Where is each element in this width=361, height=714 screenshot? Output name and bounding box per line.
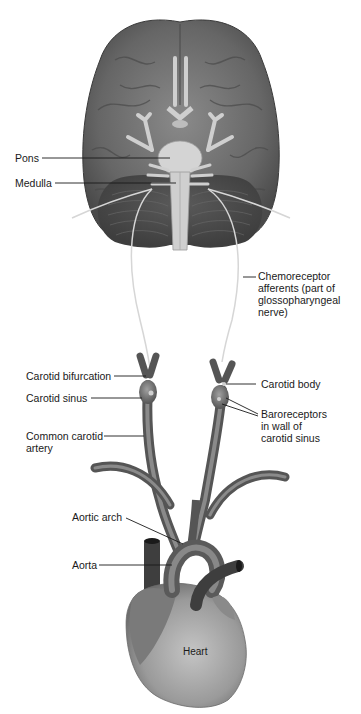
label-aortic-arch: Aortic arch bbox=[72, 511, 122, 523]
left-carotid-sinus bbox=[139, 380, 157, 404]
label-carotid-bifurcation: Carotid bifurcation bbox=[26, 370, 111, 382]
carotid-body bbox=[222, 382, 226, 386]
label-carotid-sinus: Carotid sinus bbox=[26, 392, 87, 404]
label-pons: Pons bbox=[15, 152, 39, 164]
heart bbox=[126, 538, 246, 707]
baroreceptor-leader-2 bbox=[222, 404, 258, 416]
label-medulla: Medulla bbox=[15, 177, 52, 189]
label-common-carotid-artery: Common carotid artery bbox=[26, 430, 103, 454]
anatomy-diagram bbox=[0, 0, 361, 714]
label-chemoreceptor-afferents: Chemoreceptor afferents (part of glossop… bbox=[258, 270, 340, 318]
label-baroreceptors: Baroreceptors in wall of carotid sinus bbox=[261, 408, 327, 444]
brain bbox=[83, 20, 279, 250]
label-carotid-body: Carotid body bbox=[261, 378, 321, 390]
label-aorta: Aorta bbox=[72, 559, 97, 571]
label-heart: Heart bbox=[183, 646, 207, 657]
arteries bbox=[95, 356, 285, 555]
baroreceptor-leader-1 bbox=[226, 398, 258, 414]
